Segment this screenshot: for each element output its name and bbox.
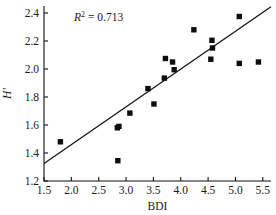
y-axis-tick-label: 1.4 <box>25 147 40 159</box>
x-axis-tick-label: 4.5 <box>201 184 216 196</box>
plot-canvas: 1.52.02.53.03.54.04.55.05.51.21.41.61.82… <box>0 0 276 215</box>
y-axis-tick-label: 1.2 <box>25 175 40 187</box>
x-axis-tick-label: 3.5 <box>146 184 161 196</box>
x-axis-tick-label: 5.5 <box>256 184 271 196</box>
data-point-marker <box>58 139 63 144</box>
data-point-marker <box>208 57 213 62</box>
data-point-marker <box>115 158 120 163</box>
x-axis-tick-label: 1.5 <box>37 184 52 196</box>
data-point-marker <box>163 56 168 61</box>
axis-frame <box>44 6 271 181</box>
data-point-marker <box>162 75 167 80</box>
y-axis-tick-label: 2.2 <box>25 35 40 47</box>
data-point-marker <box>237 14 242 19</box>
data-point-marker <box>171 67 176 72</box>
r-squared-annotation: R2 = 0.713 <box>73 10 123 23</box>
x-axis-tick-label: 5.0 <box>228 184 243 196</box>
y-axis-tick-label: 1.6 <box>25 119 40 131</box>
data-point-marker <box>116 124 121 129</box>
y-axis-title: H' <box>1 88 13 100</box>
data-point-marker <box>256 59 261 64</box>
x-axis-tick-label: 3.0 <box>119 184 134 196</box>
regression-trendline <box>44 7 271 164</box>
data-point-marker <box>191 27 196 32</box>
data-point-marker <box>170 59 175 64</box>
data-point-marker <box>127 110 132 115</box>
scatter-plot-figure: 1.52.02.53.03.54.04.55.05.51.21.41.61.82… <box>0 0 276 215</box>
x-axis-tick-label: 2.0 <box>64 184 79 196</box>
y-axis-tick-label: 2.0 <box>25 63 40 75</box>
x-axis-title: BDI <box>148 200 168 212</box>
y-axis-tick-label: 2.4 <box>25 7 40 19</box>
data-point-marker <box>237 61 242 66</box>
data-point-marker <box>209 38 214 43</box>
y-axis-tick-label: 1.8 <box>25 91 40 103</box>
x-axis-tick-label: 2.5 <box>92 184 107 196</box>
data-point-marker <box>151 101 156 106</box>
data-point-marker <box>210 45 215 50</box>
x-axis-tick-label: 4.0 <box>174 184 189 196</box>
data-point-marker <box>145 86 150 91</box>
